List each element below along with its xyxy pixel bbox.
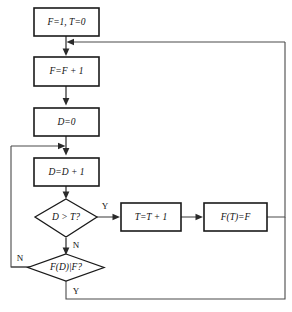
connector-store-f-to-top-feedback <box>267 42 285 217</box>
flowchart-diagram: F=1, T=0 F=F + 1 D=0 D=D + 1 D > T? F(D)… <box>0 0 292 312</box>
arrowhead-top-feedback <box>67 39 75 45</box>
arrowhead-store-f <box>196 214 204 220</box>
node-label-init: F=1, T=0 <box>46 17 85 27</box>
arrowhead-increment-d <box>63 148 70 156</box>
branch-label-divides-no: N <box>17 253 24 263</box>
node-label-reset-d: D=0 <box>56 117 75 127</box>
arrowhead-increment-t <box>113 214 121 220</box>
node-label-increment-d: D=D + 1 <box>47 167 84 177</box>
arrowhead-compare <box>63 192 70 200</box>
arrowhead-increment-f <box>63 49 70 57</box>
branch-label-compare-yes: Y <box>102 201 109 211</box>
flowchart-canvas: F=1, T=0 F=F + 1 D=0 D=D + 1 D > T? F(D)… <box>0 0 292 312</box>
branch-label-divides-yes: Y <box>73 286 80 296</box>
branch-label-compare-no: N <box>73 240 80 250</box>
connector-left-feedback-riser <box>11 146 35 267</box>
arrowhead-reset-d <box>63 98 70 106</box>
node-label-increment-t: T=T + 1 <box>135 212 168 222</box>
node-label-divides-test: F(D)|F? <box>49 262 82 273</box>
node-label-compare-d-t: D > T? <box>51 212 80 222</box>
node-label-store-f: F(T)=F <box>220 212 251 223</box>
node-label-increment-f: F=F + 1 <box>49 66 84 76</box>
